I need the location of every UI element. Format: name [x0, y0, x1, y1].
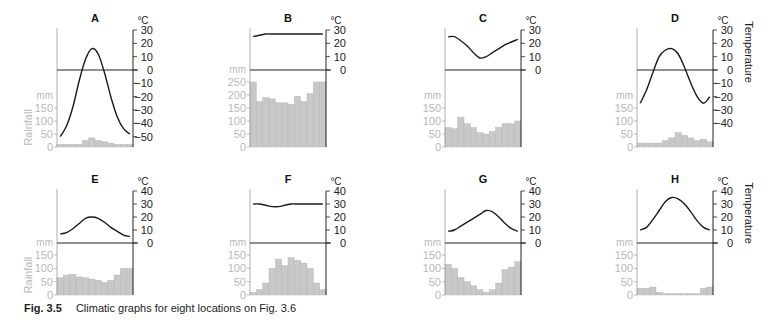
- temperature-axis-label: Temperature: [743, 182, 755, 244]
- rainfall-axis-label: Rainfall: [22, 257, 34, 294]
- climate-graph-h: 403020100°C150100500mmTemperatureH: [615, 173, 755, 301]
- climate-graphs-figure: 3020100−10−20−30−40−50°C150100500mmRainf…: [0, 0, 780, 322]
- temp-tick-label: 0: [147, 237, 153, 249]
- rainfall-bar: [694, 294, 700, 295]
- temperature-curve: [448, 210, 518, 231]
- rainfall-bar: [502, 124, 508, 147]
- rainfall-bar: [688, 294, 694, 295]
- rainfall-bar: [700, 139, 706, 147]
- celsius-unit-label: °C: [525, 15, 536, 26]
- temp-tick-label: −40: [134, 117, 153, 129]
- rainfall-bar: [263, 98, 269, 147]
- rainfall-bar: [515, 262, 521, 295]
- mm-unit-label: mm: [616, 237, 633, 248]
- mm-unit-label: mm: [424, 237, 441, 248]
- temp-tick-label: 10: [334, 51, 346, 63]
- rain-tick-label: 100: [35, 115, 53, 127]
- rain-tick-label: 0: [47, 141, 53, 153]
- temp-tick-label: 10: [721, 51, 733, 63]
- rainfall-bar: [656, 143, 662, 147]
- rainfall-bar: [694, 141, 700, 148]
- rainfall-bar: [489, 290, 495, 295]
- celsius-unit-label: °C: [717, 15, 728, 26]
- rain-tick-label: 150: [615, 249, 633, 261]
- climate-graph-f: 403020100°C150100500mmF: [228, 173, 346, 301]
- rain-tick-label: 150: [35, 102, 53, 114]
- rainfall-bar: [707, 287, 713, 295]
- rain-tick-label: 100: [228, 115, 246, 127]
- temp-tick-label: −10: [714, 77, 733, 89]
- temp-tick-label: 0: [535, 64, 541, 76]
- rainfall-bar: [445, 128, 451, 148]
- temp-tick-label: 20: [721, 211, 733, 223]
- rainfall-bar: [256, 290, 262, 295]
- temp-tick-label: 0: [727, 237, 733, 249]
- rainfall-bar: [282, 103, 288, 147]
- rainfall-bar: [470, 128, 476, 148]
- rain-tick-label: 150: [615, 102, 633, 114]
- climate-graph-d: 3020100−10−20−30−40°C150100500mmTemperat…: [615, 12, 755, 153]
- temp-tick-label: 10: [529, 224, 541, 236]
- rainfall-bar: [301, 263, 307, 295]
- rain-tick-label: 100: [35, 262, 53, 274]
- rainfall-bar: [63, 144, 69, 147]
- temp-tick-label: 20: [529, 211, 541, 223]
- figure-caption-text: Climatic graphs for eight locations on F…: [76, 302, 296, 314]
- climate-graph-c: 3020100°C150100500mmC: [423, 12, 541, 153]
- celsius-unit-label: °C: [137, 176, 148, 187]
- rainfall-bar: [82, 141, 88, 148]
- climate-graph-g: 403020100°C150100500mmG: [423, 173, 541, 301]
- rain-tick-label: 150: [423, 102, 441, 114]
- rainfall-bar: [76, 277, 82, 295]
- rainfall-bar: [662, 294, 668, 295]
- celsius-unit-label: °C: [717, 176, 728, 187]
- rainfall-bar: [263, 283, 269, 295]
- temp-tick-label: −30: [714, 104, 733, 116]
- rain-tick-label: 50: [429, 276, 441, 288]
- rainfall-bar: [120, 144, 126, 147]
- temp-tick-label: 20: [334, 37, 346, 49]
- rain-tick-label: 50: [621, 276, 633, 288]
- climate-graph-b: 3020100°C250200150100500mmB: [228, 12, 346, 153]
- celsius-unit-label: °C: [330, 176, 341, 187]
- graph-title: C: [479, 12, 487, 24]
- rain-tick-label: 100: [615, 262, 633, 274]
- temp-tick-label: −30: [134, 104, 153, 116]
- rainfall-bar: [127, 144, 133, 147]
- rainfall-bar: [688, 138, 694, 147]
- rainfall-bar: [114, 144, 120, 147]
- temp-tick-label: 30: [141, 198, 153, 210]
- rainfall-bar: [700, 288, 706, 295]
- temp-tick-label: 0: [535, 237, 541, 249]
- rainfall-bar: [502, 270, 508, 295]
- rain-tick-label: 200: [228, 89, 246, 101]
- rainfall-bar: [669, 138, 675, 147]
- rainfall-bar: [458, 117, 464, 147]
- rain-tick-label: 0: [240, 141, 246, 153]
- rainfall-bar: [681, 294, 687, 295]
- rainfall-bar: [656, 292, 662, 295]
- celsius-unit-label: °C: [525, 176, 536, 187]
- temperature-curve: [640, 48, 710, 103]
- rainfall-bar: [307, 268, 313, 295]
- rainfall-bar: [70, 274, 76, 295]
- rainfall-bar: [76, 144, 82, 147]
- temp-tick-label: 0: [340, 64, 346, 76]
- celsius-unit-label: °C: [330, 15, 341, 26]
- rainfall-bar: [470, 286, 476, 295]
- temperature-axis-label: Temperature: [743, 21, 755, 83]
- rainfall-bar: [451, 129, 457, 147]
- rainfall-bar: [294, 96, 300, 147]
- rainfall-bar: [275, 259, 281, 295]
- rainfall-bar: [282, 266, 288, 295]
- temp-tick-label: 20: [334, 211, 346, 223]
- rainfall-bar: [70, 144, 76, 147]
- graph-title: H: [671, 173, 679, 185]
- rainfall-bar: [496, 283, 502, 295]
- rainfall-bar: [508, 267, 514, 295]
- graph-title: D: [671, 12, 679, 24]
- rainfall-bar: [101, 282, 107, 295]
- rainfall-bar: [108, 143, 114, 147]
- rainfall-bar: [483, 292, 489, 295]
- rainfall-bar: [458, 278, 464, 295]
